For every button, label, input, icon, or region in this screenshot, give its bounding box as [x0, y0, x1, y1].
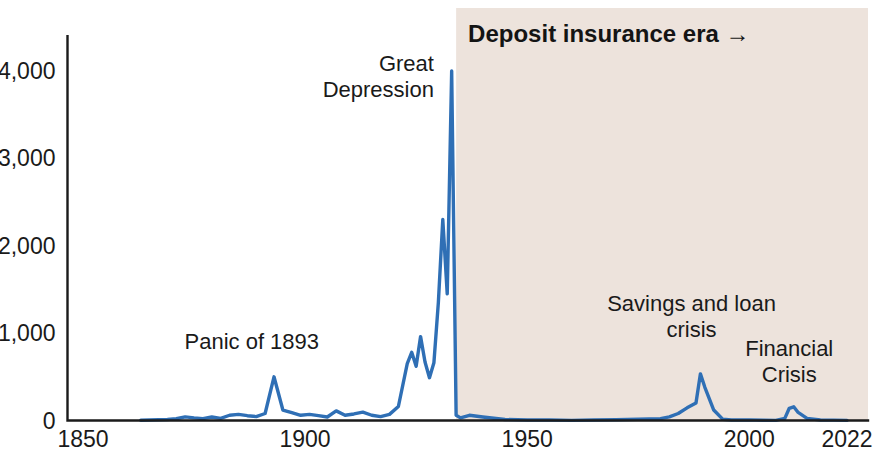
annotation-line: crisis	[666, 317, 716, 342]
x-tick-label-4: 2022	[821, 426, 872, 452]
y-tick-label-1: 1,000	[0, 320, 56, 346]
y-tick-label-3: 3,000	[0, 145, 56, 171]
annotation-line: Financial	[745, 336, 833, 361]
annotation-panic-of-1893: Panic of 1893	[185, 329, 320, 354]
x-tick-label-0: 1850	[57, 426, 108, 452]
bank-failures-chart: 01,0002,0003,0004,000 185019001950200020…	[0, 0, 876, 454]
annotation-line: Crisis	[762, 362, 817, 387]
annotation-line: Depression	[323, 77, 434, 102]
x-tick-label-1: 1900	[280, 426, 331, 452]
y-tick-labels: 01,0002,0003,0004,000	[0, 58, 56, 434]
chart-canvas: 01,0002,0003,0004,000 185019001950200020…	[0, 0, 876, 454]
y-tick-label-0: 0	[43, 408, 56, 434]
y-tick-label-2: 2,000	[0, 233, 56, 259]
annotation-line: Great	[379, 51, 434, 76]
x-tick-label-2: 1950	[502, 426, 553, 452]
annotation-great-depression: GreatDepression	[323, 51, 434, 102]
x-tick-label-3: 2000	[724, 426, 775, 452]
era-label-deposit-insurance-era: Deposit insurance era →	[468, 20, 749, 47]
y-tick-label-4: 4,000	[0, 58, 56, 84]
annotation-line: Savings and loan	[607, 291, 776, 316]
era-labels-layer: Deposit insurance era →	[468, 20, 749, 47]
annotation-line: Panic of 1893	[185, 329, 320, 354]
x-tick-labels: 18501900195020002022	[57, 426, 872, 452]
